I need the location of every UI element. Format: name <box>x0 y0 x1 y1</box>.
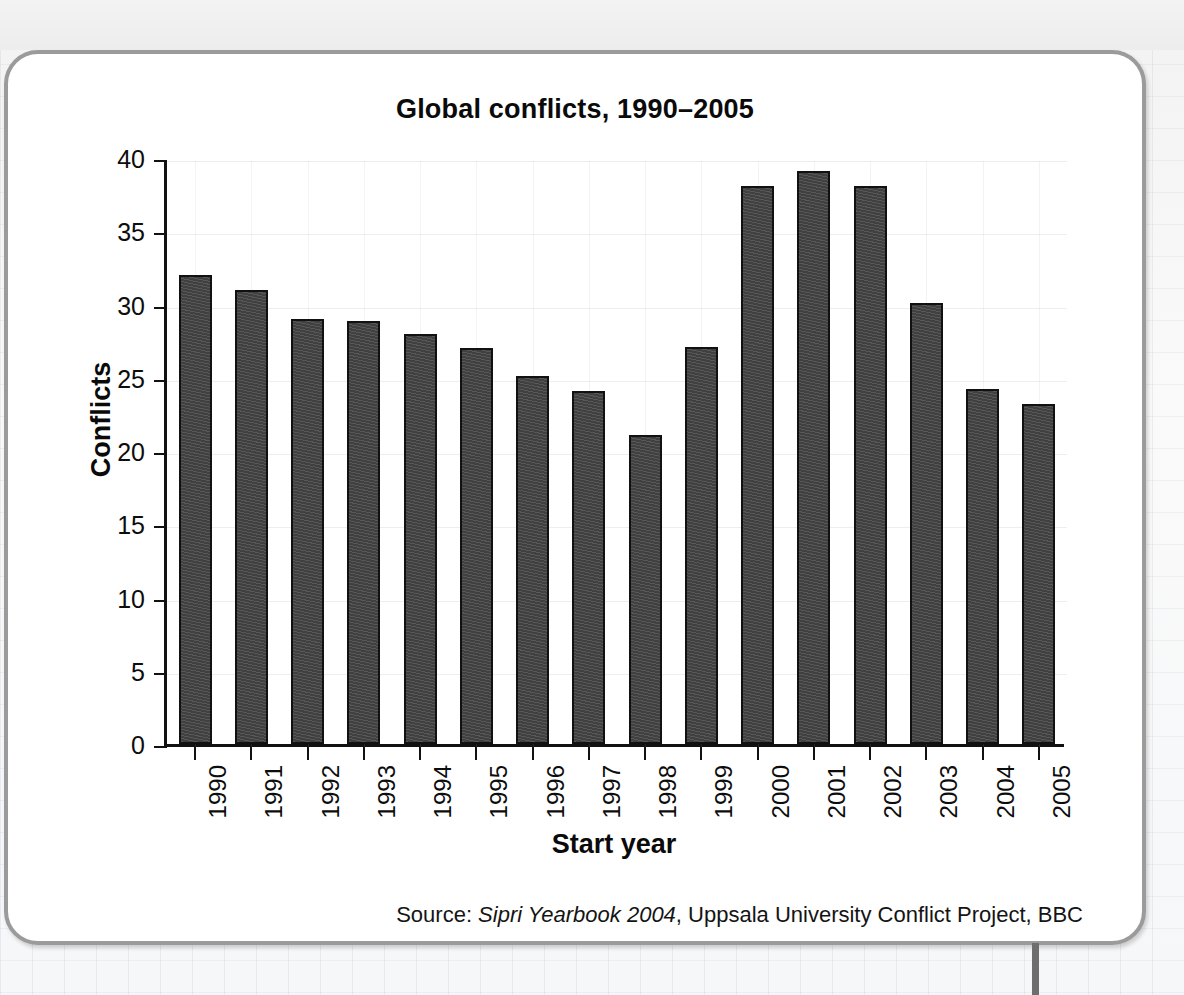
page-top-margin <box>0 0 1184 50</box>
x-axis-tick <box>250 747 252 760</box>
bar-1991 <box>235 290 268 744</box>
bar-1990 <box>179 275 212 744</box>
bar-1995 <box>460 348 493 744</box>
bar-1999 <box>685 347 718 744</box>
x-axis-tick <box>194 747 196 760</box>
x-axis-tick <box>588 747 590 760</box>
x-axis-tick <box>419 747 421 760</box>
x-axis-tick <box>757 747 759 760</box>
y-axis-tick <box>154 380 167 382</box>
y-gridline <box>167 234 1067 235</box>
bar-2003 <box>910 303 943 744</box>
bar-2004 <box>966 389 999 744</box>
y-gridline <box>167 161 1067 162</box>
bar-1996 <box>516 376 549 744</box>
x-axis-tick <box>307 747 309 760</box>
bar-1993 <box>347 321 380 744</box>
bar-1994 <box>404 334 437 744</box>
y-axis-tick-label: 0 <box>85 731 145 760</box>
y-axis-tick <box>154 526 167 528</box>
x-axis-title: Start year <box>164 829 1064 860</box>
y-axis-tick-label: 35 <box>85 218 145 247</box>
y-axis-tick <box>154 307 167 309</box>
y-axis-tick <box>154 673 167 675</box>
source-note: Source: Sipri Yearbook 2004, Uppsala Uni… <box>8 902 1083 928</box>
chart-card: Global conflicts, 1990–2005 051015202530… <box>4 50 1146 945</box>
x-axis-tick <box>982 747 984 760</box>
source-prefix: Source: <box>396 902 478 927</box>
y-axis-tick <box>154 453 167 455</box>
bar-1992 <box>291 319 324 744</box>
y-axis-tick-label: 15 <box>85 511 145 540</box>
source-suffix: , Uppsala University Conflict Project, B… <box>676 902 1083 927</box>
x-axis-tick <box>869 747 871 760</box>
screenshot-page: Global conflicts, 1990–2005 051015202530… <box>0 0 1184 995</box>
page-binding-stub <box>1032 943 1039 995</box>
y-axis-tick-label: 40 <box>85 145 145 174</box>
x-axis-tick <box>925 747 927 760</box>
y-axis-tick-label: 30 <box>85 292 145 321</box>
bar-2002 <box>854 186 887 744</box>
y-axis-tick-label: 5 <box>85 658 145 687</box>
x-axis-tick <box>475 747 477 760</box>
source-publication: Sipri Yearbook 2004 <box>478 902 676 927</box>
x-axis-tick <box>644 747 646 760</box>
x-axis-tick <box>532 747 534 760</box>
x-axis-tick <box>700 747 702 760</box>
y-axis-tick <box>154 746 167 748</box>
x-axis-tick <box>363 747 365 760</box>
bar-2000 <box>741 186 774 744</box>
y-axis-title: Conflicts <box>86 362 117 478</box>
x-axis-tick <box>1038 747 1040 760</box>
y-axis-tick <box>154 160 167 162</box>
y-axis-tick-label: 10 <box>85 585 145 614</box>
plot-area: 0510152025303540199019911992199319941995… <box>164 161 1064 747</box>
bar-2005 <box>1022 404 1055 744</box>
bar-2001 <box>797 171 830 744</box>
y-axis-tick <box>154 233 167 235</box>
y-axis-tick <box>154 600 167 602</box>
bar-1998 <box>629 435 662 744</box>
chart-title: Global conflicts, 1990–2005 <box>8 94 1142 125</box>
x-axis-tick <box>813 747 815 760</box>
bar-1997 <box>572 391 605 744</box>
chart-card-inner: Global conflicts, 1990–2005 051015202530… <box>8 54 1142 941</box>
